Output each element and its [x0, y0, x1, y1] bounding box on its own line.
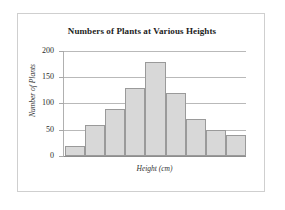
y-tick-200 [59, 51, 64, 52]
bar [145, 62, 165, 157]
bar [65, 146, 85, 157]
bar [125, 88, 145, 156]
y-tick-150 [59, 77, 64, 78]
bar [105, 109, 125, 156]
y-tick-0 [59, 156, 64, 157]
y-tick-label-50: 50 [28, 126, 54, 134]
y-tick-50 [59, 130, 64, 131]
bar-series [65, 51, 246, 156]
y-tick-100 [59, 103, 64, 104]
bar [226, 135, 246, 156]
y-tick-label-200: 200 [28, 47, 54, 55]
chart-frame: Numbers of Plants at Various Heights 200… [17, 13, 265, 192]
plot-area: 200 150 100 50 0 Number of Plants Height… [18, 14, 266, 193]
y-tick-label-0: 0 [28, 152, 54, 160]
bar [166, 93, 186, 156]
y-axis-title: Number of Plants [28, 58, 37, 124]
x-axis-line [63, 156, 246, 157]
bar [186, 119, 206, 156]
bar [206, 130, 226, 156]
bar [85, 125, 105, 157]
x-axis-title: Height (cm) [63, 164, 246, 173]
